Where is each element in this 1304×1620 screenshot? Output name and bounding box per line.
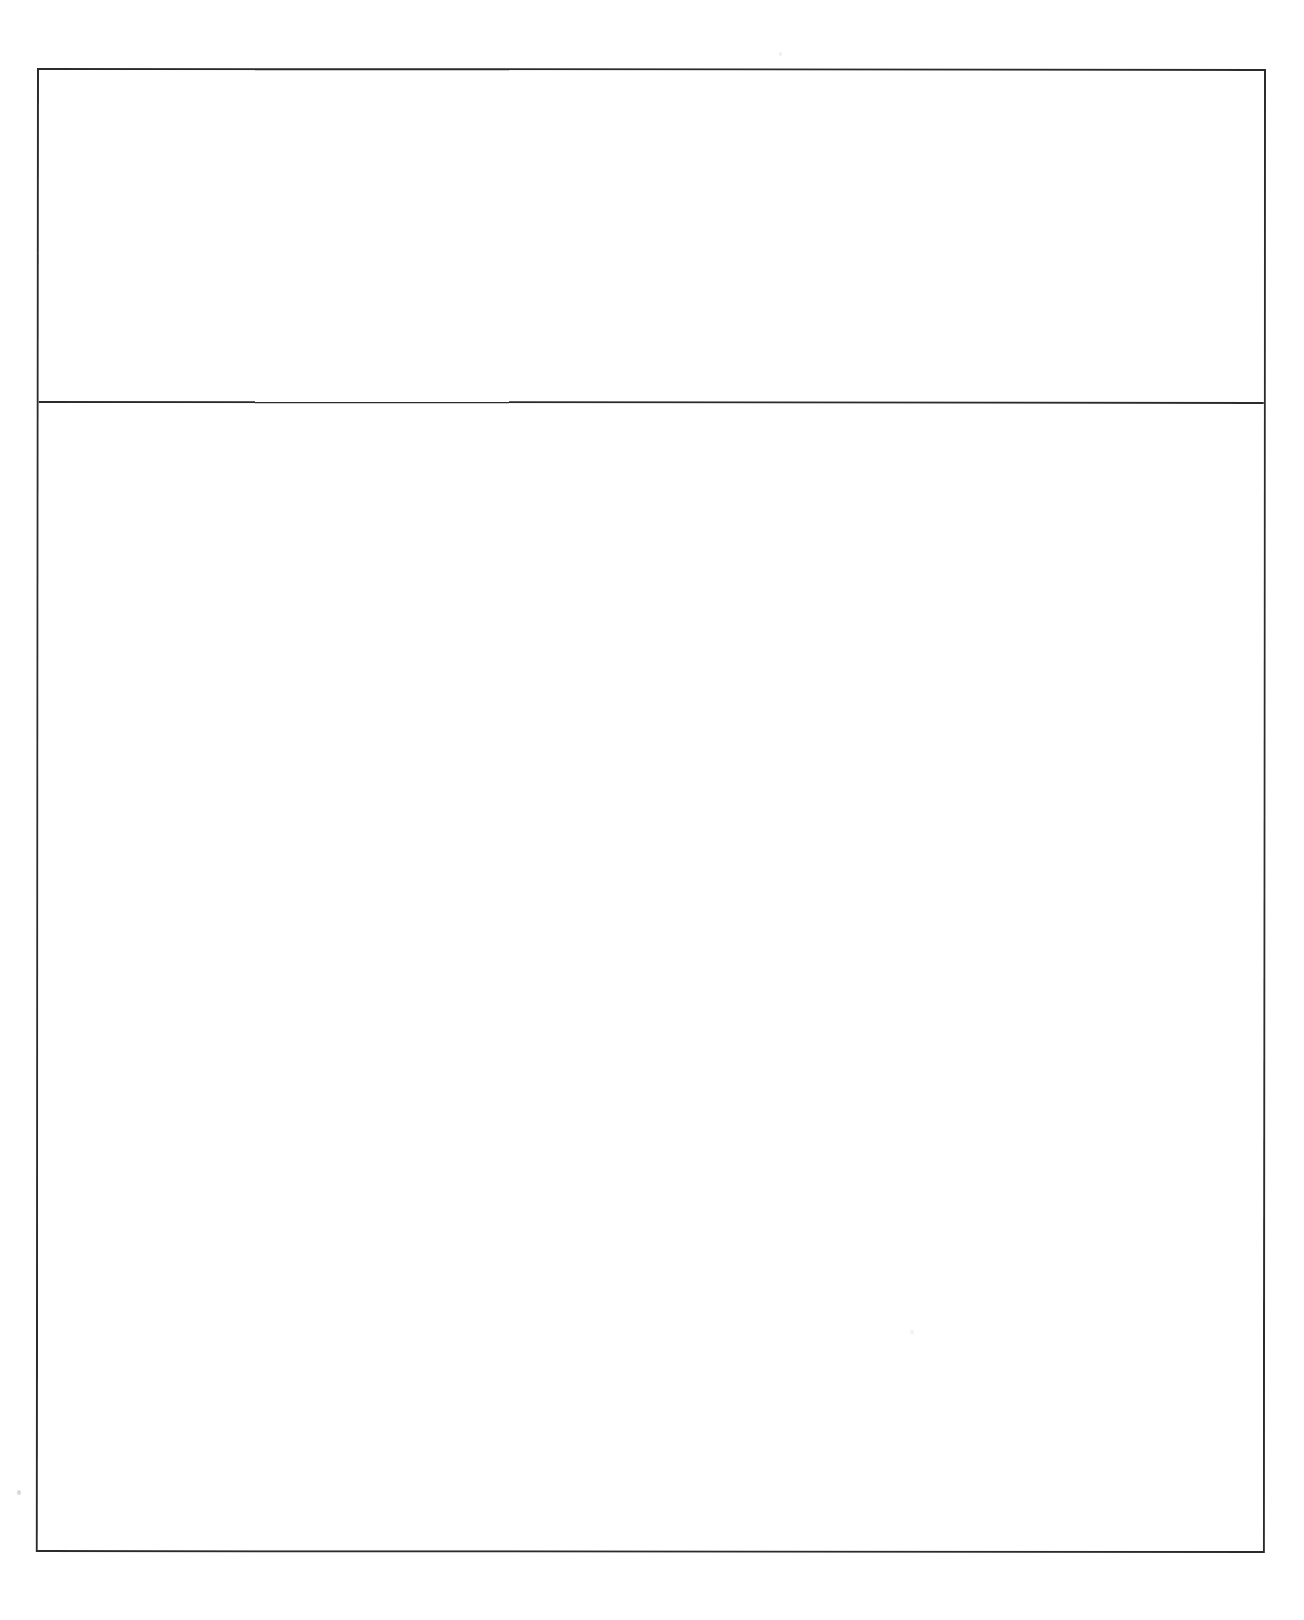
form-cell-top-text	[39, 70, 1264, 402]
form-frame	[36, 68, 1266, 1553]
scan-speck-icon	[779, 52, 782, 56]
form-cell-top[interactable]	[39, 70, 1264, 404]
page-canvas	[0, 0, 1304, 1620]
scan-speck-icon	[17, 1490, 21, 1495]
form-cell-bottom[interactable]	[38, 403, 1264, 1551]
form-cell-bottom-text	[38, 403, 1264, 1551]
